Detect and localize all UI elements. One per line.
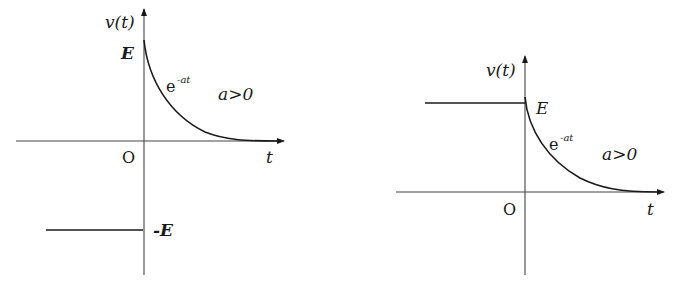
- right-graph: v(t) E e -at a>0 O t: [396, 56, 664, 275]
- left-E-label: E: [120, 43, 135, 63]
- left-y-axis-label: v(t): [105, 12, 135, 32]
- left-exp-decay-curve: [144, 40, 278, 141]
- right-origin-label: O: [503, 200, 516, 219]
- right-y-axis-label: v(t): [486, 60, 516, 80]
- left-graph: v(t) E e -at a>0 O t -E: [16, 9, 284, 275]
- right-curve-label-exp: -at: [560, 132, 574, 143]
- left-curve-label-base: e: [166, 77, 175, 96]
- left-curve-label-exp: -at: [177, 74, 191, 85]
- left-origin-label: O: [122, 148, 135, 167]
- left-neg-E-label: -E: [153, 220, 174, 240]
- right-E-label: E: [535, 98, 549, 118]
- right-condition-label: a>0: [602, 144, 637, 164]
- diagram-canvas: v(t) E e -at a>0 O t -E v(t) E e -at a>0…: [0, 0, 674, 289]
- left-condition-label: a>0: [218, 84, 253, 104]
- right-x-axis-label: t: [647, 199, 654, 219]
- left-x-axis-label: t: [266, 147, 273, 167]
- right-curve-label-base: e: [549, 135, 558, 154]
